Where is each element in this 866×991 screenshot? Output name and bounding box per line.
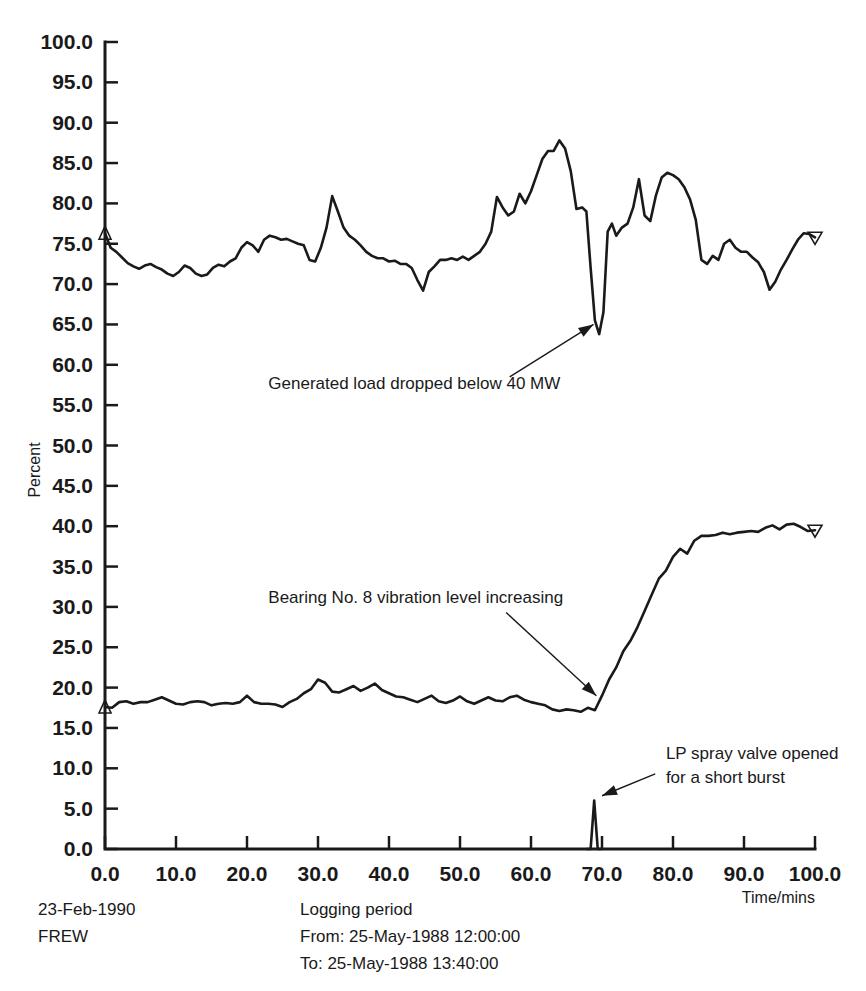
y-axis-tick-labels: 0.05.010.015.020.025.030.035.040.045.050… <box>40 30 93 860</box>
y-tick-label: 15.0 <box>52 716 93 739</box>
y-tick-label: 95.0 <box>52 70 93 93</box>
y-tick-label: 35.0 <box>52 555 93 578</box>
y-tick-label: 55.0 <box>52 393 93 416</box>
y-tick-label: 65.0 <box>52 312 93 335</box>
x-tick-label: 0.0 <box>90 862 119 885</box>
series-line-1 <box>105 524 815 712</box>
axis-frame <box>105 42 815 849</box>
generated-load-annotation-text: Generated load dropped below 40 MW <box>268 374 560 393</box>
y-tick-label: 75.0 <box>52 232 93 255</box>
x-tick-label: 10.0 <box>156 862 197 885</box>
lp-spray-valve-annotation-line1: LP spray valve opened <box>666 744 839 763</box>
generated-load-arrowhead <box>578 324 593 336</box>
x-tick-label: 80.0 <box>653 862 694 885</box>
lp-spray-valve-arrowhead <box>602 785 618 795</box>
report-date: 23-Feb-1990 <box>38 900 135 919</box>
series-line-0 <box>105 140 815 334</box>
y-tick-label: 60.0 <box>52 353 93 376</box>
x-axis-title: Time/mins <box>742 889 815 906</box>
y-tick-label: 40.0 <box>52 514 93 537</box>
y-tick-label: 90.0 <box>52 111 93 134</box>
y-tick-label: 80.0 <box>52 191 93 214</box>
y-tick-label: 0.0 <box>64 837 93 860</box>
x-axis-tick-labels: 0.010.020.030.040.050.060.070.080.090.01… <box>90 862 841 885</box>
y-tick-label: 50.0 <box>52 434 93 457</box>
y-axis-title: Percent <box>26 442 43 498</box>
chart-annotations: Generated load dropped below 40 MW Beari… <box>268 324 838 795</box>
series-line-2 <box>587 801 601 849</box>
y-tick-label: 20.0 <box>52 676 93 699</box>
logging-period-from: From: 25-May-1988 12:00:00 <box>300 927 520 946</box>
x-tick-label: 20.0 <box>227 862 268 885</box>
series-endpoint-markers <box>99 226 822 713</box>
x-tick-label: 40.0 <box>369 862 410 885</box>
footer-block: 23-Feb-1990 FREW Logging period From: 25… <box>38 900 520 973</box>
y-tick-label: 10.0 <box>52 756 93 779</box>
y-tick-label: 5.0 <box>64 797 93 820</box>
x-tick-label: 50.0 <box>440 862 481 885</box>
line-chart-canvas: 0.05.010.015.020.025.030.035.040.045.050… <box>0 0 866 991</box>
y-tick-label: 85.0 <box>52 151 93 174</box>
x-tick-label: 30.0 <box>298 862 339 885</box>
y-tick-label: 30.0 <box>52 595 93 618</box>
bearing-vibration-leader-arrow <box>506 613 596 696</box>
generated-load-annotation: Generated load dropped below 40 MW <box>268 324 593 393</box>
y-tick-label: 70.0 <box>52 272 93 295</box>
logging-period-label: Logging period <box>300 900 412 919</box>
bearing-vibration-annotation-text: Bearing No. 8 vibration level increasing <box>268 588 563 607</box>
chart-figure: 0.05.010.015.020.025.030.035.040.045.050… <box>0 0 866 991</box>
axis-tick-marks <box>105 42 815 849</box>
x-tick-label: 100.0 <box>789 862 842 885</box>
x-tick-label: 90.0 <box>724 862 765 885</box>
lp-spray-valve-annotation-line2: for a short burst <box>666 768 785 787</box>
y-tick-label: 45.0 <box>52 474 93 497</box>
logging-period-to: To: 25-May-1988 13:40:00 <box>300 954 498 973</box>
x-tick-label: 60.0 <box>511 862 552 885</box>
x-tick-label: 70.0 <box>582 862 623 885</box>
y-tick-label: 25.0 <box>52 635 93 658</box>
author-code: FREW <box>38 927 88 946</box>
y-tick-label: 100.0 <box>40 30 93 53</box>
lp-spray-valve-annotation: LP spray valve opened for a short burst <box>602 744 839 796</box>
